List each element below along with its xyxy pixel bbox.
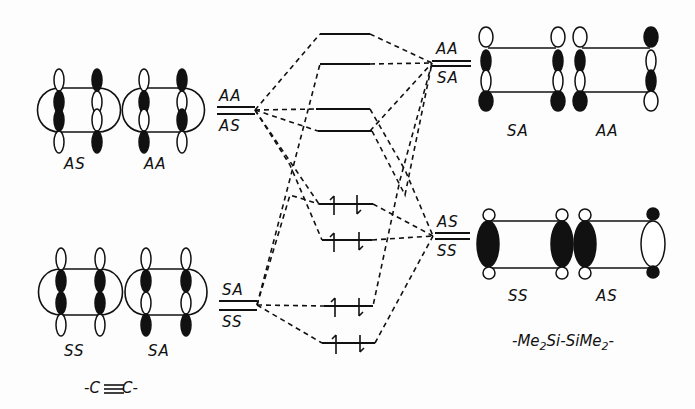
label-left-level-SA: SA (222, 283, 244, 298)
label-left-level-AS: AS (219, 119, 241, 134)
title-subscript-2: 2 (602, 340, 609, 353)
orbital-right-AA (573, 27, 658, 111)
label-right-level-AS: AS (437, 215, 459, 230)
label-right-level-SA: SA (437, 71, 459, 86)
correlation-lines (255, 34, 433, 343)
left-fragment-title: -CC- (84, 381, 138, 396)
electron-pair-mo6 (330, 232, 363, 252)
label-right-orbital-SA: SA (507, 124, 529, 139)
title-subscript-1: 2 (540, 340, 547, 353)
label-left-level-AA: AA (219, 89, 242, 104)
title-mid: Si-SiMe (547, 332, 602, 350)
label-left-orbital-AS: AS (64, 157, 86, 172)
left-levels-lower (219, 301, 257, 310)
right-fragment-title: -Me2Si-SiMe2- (512, 334, 614, 352)
orbital-left-SA (125, 248, 207, 336)
label-left-orbital-SA: SA (148, 344, 170, 359)
label-left-orbital-AA: AA (144, 157, 167, 172)
orbital-left-AA (122, 69, 204, 153)
label-right-orbital-AS: AS (596, 289, 618, 304)
label-right-level-SS: SS (437, 244, 458, 259)
label-right-level-AA: AA (436, 42, 459, 57)
mo-diagram: .ln { stroke: #111; stroke-width: 2; fil… (0, 0, 695, 409)
label-right-orbital-SS: SS (508, 289, 529, 304)
orbital-right-SS (477, 209, 573, 279)
label-left-orbital-SS: SS (64, 344, 85, 359)
electron-pair-mo8 (332, 335, 364, 354)
title-prefix: -Me (512, 332, 540, 350)
center-levels (316, 34, 375, 354)
orbital-right-SA (479, 27, 565, 111)
label-right-orbital-AA: AA (596, 124, 619, 139)
orbital-left-SS (39, 248, 123, 336)
title-suffix: - (609, 332, 614, 350)
right-levels-lower (435, 233, 470, 239)
orbital-left-AS (38, 69, 121, 153)
orbital-right-AS (574, 208, 665, 279)
electron-pair-mo7 (331, 298, 363, 317)
label-left-level-SS: SS (222, 315, 243, 330)
right-levels-upper (432, 61, 471, 66)
left-levels-upper (217, 107, 255, 114)
